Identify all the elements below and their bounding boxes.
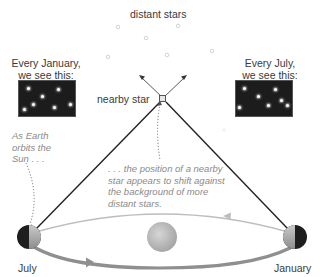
star-icon: [57, 88, 60, 91]
star-icon: [176, 24, 180, 28]
arrow-icon: [181, 75, 187, 80]
january-view-line1: Every January,: [6, 57, 86, 69]
star-icon: [32, 103, 35, 106]
july-view-line1: Every July,: [229, 57, 311, 69]
earth-lit-half: [29, 225, 41, 249]
dotted-pointer-center: [158, 104, 161, 160]
caption-center-line3: the background of more: [108, 186, 225, 198]
july-view-label: Every July, we see this:: [229, 57, 311, 81]
star-icon: [69, 103, 72, 106]
july-label: July: [18, 262, 37, 274]
star-icon: [223, 129, 225, 131]
caption-center-line4: distant stars.: [108, 198, 225, 210]
earth-july: [17, 225, 41, 249]
star-icon: [144, 36, 148, 40]
projection-line-right: [163, 77, 185, 98]
orbit-arrow-icon: [86, 258, 94, 268]
january-label: January: [274, 262, 311, 274]
star-icon: [210, 49, 214, 53]
caption-center-line1: . . . the position of a nearby: [108, 163, 225, 175]
distant-stars-label: distant stars: [130, 8, 187, 20]
star-icon: [41, 95, 44, 98]
star-icon: [243, 87, 246, 90]
star-icon: [286, 104, 289, 107]
star-icon: [165, 53, 169, 57]
star-icon: [27, 87, 30, 90]
distant-stars: [106, 24, 225, 131]
caption-center-line2: star appears to shift against: [108, 175, 225, 187]
caption-left-line2: orbits the: [12, 142, 51, 154]
star-icon: [53, 106, 56, 109]
caption-star-shift: . . . the position of a nearby star appe…: [108, 163, 225, 209]
caption-left-line1: As Earth: [12, 130, 51, 142]
earth-lit-half: [283, 225, 295, 249]
star-icon: [274, 88, 277, 91]
earth-january: [283, 225, 307, 249]
nearby-star-icon: [160, 96, 166, 102]
arrow-icon: [139, 75, 145, 80]
sun-icon: [147, 222, 177, 252]
star-icon: [267, 104, 270, 107]
january-sky-view: [18, 80, 76, 117]
star-icon: [106, 55, 110, 59]
nearby-star-label: nearby star: [97, 93, 150, 105]
dotted-pointer-left: [26, 163, 34, 224]
caption-earth-orbits: As Earth orbits the Sun . . .: [12, 130, 51, 165]
star-icon: [280, 99, 283, 102]
january-view-label: Every January, we see this:: [6, 57, 86, 81]
star-icon: [116, 25, 120, 29]
star-icon: [23, 108, 26, 111]
caption-left-line3: Sun . . .: [12, 153, 51, 165]
star-icon: [238, 106, 241, 109]
star-icon: [257, 95, 260, 98]
july-sky-view: [235, 80, 293, 117]
